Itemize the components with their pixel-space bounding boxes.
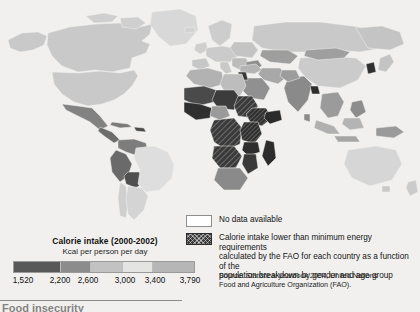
region-bangladesh bbox=[310, 86, 320, 94]
bottom-divider bbox=[0, 300, 182, 301]
calorie-deficit-line-2: calculated by the FAO for each country a… bbox=[219, 252, 416, 271]
region-iceland bbox=[184, 27, 196, 33]
region-indonesia-java bbox=[334, 136, 360, 142]
next-section-heading: Food insecurity bbox=[2, 303, 192, 312]
region-tasmania bbox=[382, 186, 390, 192]
no-data-swatch bbox=[186, 215, 212, 227]
scale-tick-3: 3,000 bbox=[115, 275, 136, 286]
scale-tick-1: 2,200 bbox=[50, 275, 71, 286]
source-line-2: Food and Agriculture Organization (FAO). bbox=[219, 281, 419, 290]
scale-band-2 bbox=[61, 262, 91, 272]
scale-band-1 bbox=[14, 262, 61, 272]
region-mongolia bbox=[304, 48, 350, 60]
calorie-deficit-line-1: Calorie intake lower than minimum energy… bbox=[219, 233, 416, 252]
scale-legend-subtitle: Kcal per person per day bbox=[12, 247, 198, 257]
world-map[interactable] bbox=[0, 0, 420, 230]
no-data-label: No data available bbox=[219, 214, 282, 225]
region-korea bbox=[366, 62, 376, 74]
source-label: Source: bbox=[219, 271, 244, 280]
source-publication: Statistical yearbook 2004 bbox=[246, 271, 326, 280]
figure-root: Calorie intake (2000-2002) Kcal per pers… bbox=[0, 0, 420, 312]
scale-tick-2: 2,600 bbox=[78, 275, 99, 286]
scale-band-4 bbox=[123, 262, 153, 272]
source-publisher: , United Nations bbox=[326, 271, 377, 280]
scale-tick-0: 1,520 bbox=[13, 275, 34, 286]
scale-tick-4: 3,400 bbox=[145, 275, 166, 286]
calorie-deficit-swatch bbox=[186, 233, 212, 245]
scale-band-3 bbox=[91, 262, 123, 272]
no-data-line-1: No data available bbox=[219, 215, 282, 225]
map-area bbox=[0, 0, 420, 230]
scale-tick-labels: 1,520 2,200 2,600 3,000 3,400 3,790 bbox=[12, 275, 196, 287]
source-note: Source: Statistical yearbook 2004, Unite… bbox=[219, 272, 419, 289]
scale-legend: Calorie intake (2000-2002) Kcal per pers… bbox=[12, 236, 198, 287]
key-item-no-data: No data available bbox=[186, 214, 416, 227]
scale-color-bar bbox=[13, 261, 195, 273]
scale-legend-title: Calorie intake (2000-2002) bbox=[12, 236, 198, 247]
world-map-svg bbox=[0, 0, 420, 230]
